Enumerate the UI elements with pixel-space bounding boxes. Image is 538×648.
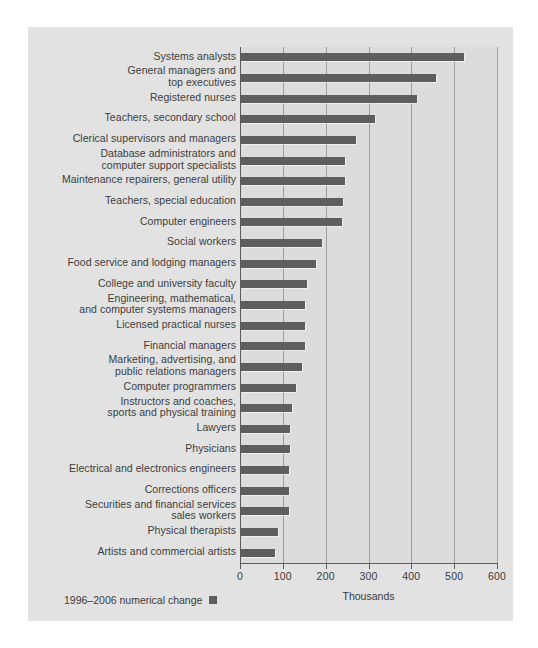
category-label: Physical therapists [148,525,237,537]
bar [241,363,302,371]
bar [241,260,316,268]
chart-panel: Systems analystsGeneral managers and top… [28,27,513,621]
category-label: General managers and top executives [128,65,236,88]
gridline-200 [326,47,327,563]
bar [241,53,464,61]
category-label: Maintenance repairers, general utility [62,174,236,186]
bar [241,528,278,536]
legend: 1996–2006 numerical change [64,594,217,606]
category-label: Database administrators and computer sup… [100,148,236,171]
bar [241,157,345,165]
gridline-500 [454,47,455,563]
category-label: Marketing, advertising, and public relat… [109,354,236,377]
x-tick-label-100: 100 [263,570,303,582]
gridline-400 [411,47,412,563]
x-tick-300 [369,564,370,569]
category-label: Instructors and coaches, sports and phys… [107,396,236,419]
bar [241,95,417,103]
category-label: Social workers [167,236,236,248]
bar [241,136,356,144]
bar [241,239,322,247]
bar [241,280,307,288]
bar [241,466,289,474]
category-label: Artists and commercial artists [97,546,236,558]
plot-region: 0100200300400500600 [240,47,497,563]
bar [241,445,290,453]
bar [241,301,305,309]
bar [241,177,345,185]
x-tick-label-600: 600 [477,570,517,582]
x-tick-0 [240,564,241,569]
category-label: Teachers, secondary school [105,112,236,124]
category-label: Electrical and electronics engineers [69,463,236,475]
chart-area: Systems analystsGeneral managers and top… [28,27,513,621]
bar [241,74,436,82]
x-tick-label-500: 500 [434,570,474,582]
x-tick-label-200: 200 [306,570,346,582]
x-tick-label-300: 300 [349,570,389,582]
bar [241,384,296,392]
x-tick-label-400: 400 [391,570,431,582]
bar [241,342,305,350]
bar [241,218,342,226]
gridline-300 [369,47,370,563]
category-label: Computer programmers [124,381,236,393]
x-tick-100 [283,564,284,569]
category-label: Licensed practical nurses [116,319,236,331]
x-axis-title: Thousands [240,590,497,602]
bar [241,507,289,515]
category-label: Securities and financial services sales … [85,499,236,522]
figure-root: Systems analystsGeneral managers and top… [0,0,538,648]
bar [241,115,375,123]
x-tick-label-0: 0 [220,570,260,582]
bar [241,425,290,433]
legend-label: 1996–2006 numerical change [64,594,202,606]
x-tick-600 [497,564,498,569]
bar [241,487,289,495]
bar [241,404,292,412]
category-label: College and university faculty [98,278,236,290]
category-label: Registered nurses [150,92,236,104]
legend-swatch [209,596,217,604]
category-label: Clerical supervisors and managers [73,133,236,145]
category-label: Systems analysts [154,51,237,63]
x-tick-200 [326,564,327,569]
category-label: Financial managers [143,340,236,352]
category-label: Food service and lodging managers [67,257,236,269]
x-tick-400 [411,564,412,569]
gridline-600 [497,47,498,563]
bar [241,198,343,206]
bar [241,322,305,330]
category-label: Physicians [185,443,236,455]
y-axis-line [240,47,241,564]
category-label: Corrections officers [145,484,236,496]
category-label: Engineering, mathematical, and computer … [79,293,236,316]
category-label: Lawyers [197,422,236,434]
category-label: Computer engineers [140,216,236,228]
category-label: Teachers, special education [105,195,236,207]
bar [241,549,275,557]
x-tick-500 [454,564,455,569]
